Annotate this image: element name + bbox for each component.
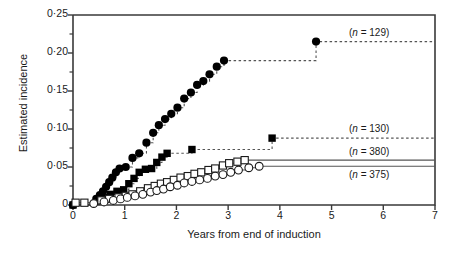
data-point-open-circle: [196, 176, 204, 184]
data-point-open-circle: [245, 164, 253, 172]
data-point-filled-circle: [213, 63, 221, 71]
data-point-open-square: [226, 160, 233, 167]
data-point-open-square: [205, 166, 212, 173]
data-point-open-circle: [90, 200, 98, 208]
data-point-open-circle: [180, 179, 188, 187]
data-point-open-circle: [100, 198, 108, 206]
data-point-filled-circle: [135, 149, 143, 157]
data-point-open-circle: [131, 192, 139, 200]
data-point-filled-square: [163, 150, 170, 157]
data-point-filled-circle: [155, 121, 163, 129]
data-point-filled-circle: [205, 70, 213, 78]
data-point-filled-circle: [149, 129, 157, 137]
data-point-open-circle: [235, 166, 243, 174]
data-point-open-square: [234, 158, 241, 165]
data-point-filled-circle: [220, 57, 228, 65]
data-point-open-circle: [109, 197, 117, 205]
data-point-filled-circle: [142, 139, 150, 147]
data-point-open-circle: [219, 171, 227, 179]
data-point-filled-circle: [167, 110, 175, 118]
data-point-open-circle: [255, 162, 263, 170]
data-point-open-square: [198, 169, 205, 176]
data-point-filled-square: [268, 134, 275, 141]
data-point-open-circle: [227, 168, 235, 176]
legend-label-n375: (n = 375): [349, 169, 389, 180]
plot-area: [0, 0, 461, 255]
data-point-filled-circle: [128, 154, 136, 162]
data-point-filled-circle: [312, 38, 320, 46]
data-point-open-circle: [166, 183, 174, 191]
data-point-open-circle: [211, 172, 219, 180]
incidence-chart-figure: Estimated incidence Years from end of in…: [0, 0, 461, 255]
data-point-filled-square: [188, 146, 195, 153]
data-point-open-square: [81, 199, 88, 206]
data-point-open-circle: [123, 194, 131, 202]
data-point-open-circle: [204, 175, 212, 183]
data-point-filled-circle: [199, 77, 207, 85]
data-point-filled-circle: [173, 104, 181, 112]
data-point-open-square: [72, 199, 79, 206]
data-point-filled-circle: [187, 88, 195, 96]
data-point-open-circle: [188, 178, 196, 186]
data-point-open-square: [241, 157, 248, 164]
data-point-open-square: [212, 165, 219, 172]
legend-label-n129: (n = 129): [349, 27, 389, 38]
data-point-filled-circle: [161, 115, 169, 123]
data-point-filled-circle: [122, 163, 130, 171]
legend-label-n130: (n = 130): [349, 123, 389, 134]
legend-label-n380: (n = 380): [349, 146, 389, 157]
data-point-filled-circle: [180, 95, 188, 103]
data-point-open-circle: [139, 190, 147, 198]
